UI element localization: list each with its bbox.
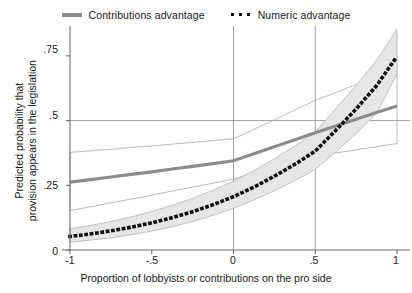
chart-figure: Contributions advantage Numeric advantag… (0, 0, 412, 293)
plot-canvas (0, 0, 412, 293)
